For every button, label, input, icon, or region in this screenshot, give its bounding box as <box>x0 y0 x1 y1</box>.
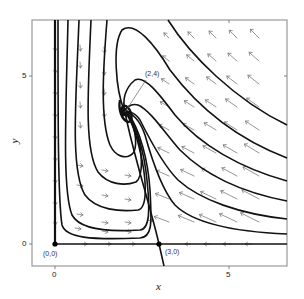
plot-frame <box>32 20 287 266</box>
trajectories <box>55 20 287 266</box>
equilibrium-dot-saddle <box>156 241 161 246</box>
equilibrium-label-origin: (0,0) <box>43 250 57 257</box>
x-tick-0: 0 <box>52 270 56 279</box>
x-axis-label: x <box>156 280 161 292</box>
equilibrium-label-saddle: (3,0) <box>165 248 179 255</box>
equilibrium-label-spiral: (2,4) <box>145 70 159 77</box>
direction-field <box>53 29 259 246</box>
equilibrium-dot-origin <box>52 241 57 246</box>
y-axis-label: y <box>8 139 20 144</box>
y-tick-0: 0 <box>22 239 26 248</box>
x-tick-5: 5 <box>226 270 230 279</box>
y-tick-5: 5 <box>22 71 26 80</box>
